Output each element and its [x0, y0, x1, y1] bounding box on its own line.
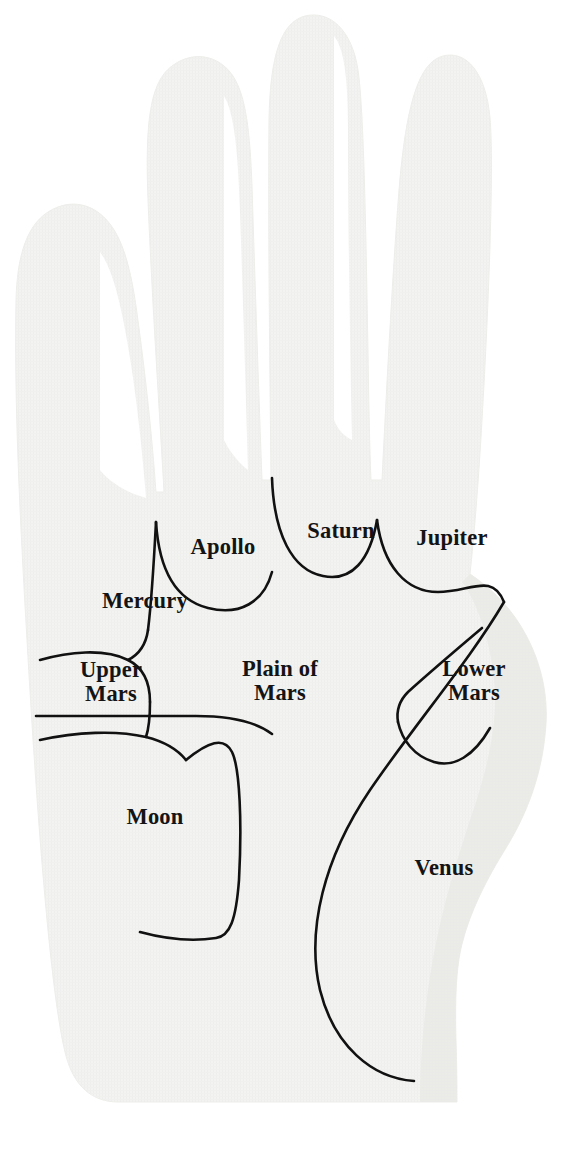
- mount-label-moon: Moon: [115, 805, 195, 829]
- mount-label-line: Upper: [63, 658, 159, 682]
- mount-label-venus: Venus: [402, 856, 486, 880]
- mount-label-line: Mars: [425, 681, 523, 705]
- mount-label-line: Mercury: [90, 589, 200, 613]
- mount-label-saturn: Saturn: [296, 519, 386, 543]
- hand-silhouette: [16, 15, 547, 1102]
- mount-label-line: Saturn: [296, 519, 386, 543]
- palmistry-diagram: MercuryApolloSaturnJupiterUpperMarsPlain…: [0, 0, 562, 1156]
- hand-silhouette-group: [16, 15, 547, 1102]
- mount-label-line: Mars: [219, 681, 341, 705]
- mount-label-jupiter: Jupiter: [406, 526, 498, 550]
- mount-label-line: Plain of: [219, 657, 341, 681]
- mount-label-lower-mars: LowerMars: [425, 657, 523, 706]
- mount-label-plain-of-mars: Plain ofMars: [219, 657, 341, 706]
- mount-label-line: Moon: [115, 805, 195, 829]
- mount-label-upper-mars: UpperMars: [63, 658, 159, 707]
- mount-label-apollo: Apollo: [175, 535, 271, 559]
- mount-label-mercury: Mercury: [90, 589, 200, 613]
- palm-illustration: [0, 0, 562, 1156]
- mount-label-line: Venus: [402, 856, 486, 880]
- mount-label-line: Lower: [425, 657, 523, 681]
- mount-label-line: Mars: [63, 682, 159, 706]
- mount-label-line: Jupiter: [406, 526, 498, 550]
- mount-label-line: Apollo: [175, 535, 271, 559]
